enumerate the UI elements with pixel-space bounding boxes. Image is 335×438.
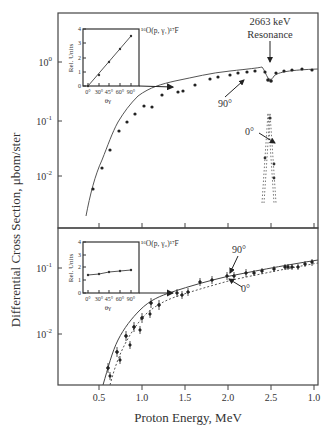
x-tick-2.5: 2.5 [265,392,278,403]
lower-ytick-1: 10 [36,329,46,340]
upper-label-90: 90° [218,98,232,109]
lower-inset: 0 1 2 3 4 0° 30° 45° 60° 90° θγ Rel. Uni… [67,239,179,312]
svg-text:2: 2 [78,55,81,61]
upper-inset: 0 1 2 3 4 0° 30° 45° 60° 90° θγ Rel. Uni… [67,26,179,105]
svg-text:100: 100 [39,55,53,68]
svg-text:10-1: 10-1 [36,114,52,127]
upper-90-arrow-icon [225,80,244,97]
x-tick-2.0: 2.0 [222,392,235,403]
upper-panel: 100 10-1 10-2 [36,13,318,228]
lower-0deg-curve [110,263,318,385]
lower-label-90: 90° [232,244,246,255]
x-tick-1.0: 1.0 [136,392,149,403]
upper-inset-reaction: ¹⁶O(p, γ₁)¹⁷F [141,26,179,35]
svg-text:3: 3 [78,252,81,258]
lower-inset-reaction: ¹⁶O(p, γ₀)¹⁷F [141,239,179,248]
svg-text:3: 3 [78,40,81,46]
svg-text:0: 0 [78,83,81,89]
resonance-label-energy: 2663 keV [249,16,291,27]
upper-0-arrow-icon [259,133,275,143]
svg-text:1: 1 [78,277,81,283]
svg-text:45°: 45° [105,296,114,302]
svg-text:30°: 30° [95,296,104,302]
svg-text:10-2: 10-2 [36,327,52,340]
upper-label-0: 0° [245,126,254,137]
svg-text:10-2: 10-2 [36,169,52,182]
lower-inset-xlabel: θγ [105,304,111,312]
x-tick-1.5: 1.5 [179,392,192,403]
svg-text:4: 4 [78,239,81,245]
svg-text:90°: 90° [127,296,136,302]
svg-text:30°: 30° [95,89,104,95]
lower-label-0: 0° [241,283,250,294]
lower-inset-ylabel: Rel. Units [67,254,75,283]
lower-90-arrow-icon [230,256,238,273]
svg-text:10-1: 10-1 [36,261,52,274]
upper-inset-arrow-icon [139,86,173,87]
upper-inset-ylabel: Rel. Units [67,44,75,73]
svg-text:2: 2 [78,264,81,270]
lower-ytick-0: 10 [36,263,46,274]
upper-ytick-0: 10 [39,57,49,68]
x-axis-label: Proton Energy, MeV [134,410,242,425]
svg-text:0°: 0° [85,89,91,95]
lower-panel: 10-1 10-2 0.5 1.0 1.5 2.0 2.5 1.0 [36,228,320,403]
svg-text:4: 4 [78,26,81,32]
svg-text:60°: 60° [116,89,125,95]
svg-text:45°: 45° [105,89,114,95]
figure: Differential Cross Section, μbom/ster Pr… [0,0,335,438]
svg-text:60°: 60° [116,296,125,302]
resonance-label-text: Resonance [247,29,293,40]
x-tick-3.0: 1.0 [308,392,321,403]
y-axis-label: Differential Cross Section, μbom/ster [8,132,23,327]
svg-text:1: 1 [78,69,81,75]
upper-ytick-1: 10 [36,116,46,127]
svg-text:0°: 0° [85,296,91,302]
upper-ytick-2: 10 [36,171,46,182]
x-tick-0.5: 0.5 [93,392,106,403]
svg-text:0: 0 [78,290,81,296]
upper-inset-xlabel: θγ [105,97,111,105]
svg-text:90°: 90° [127,89,136,95]
